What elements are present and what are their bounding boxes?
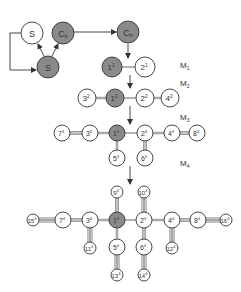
node-2-4: 24	[136, 212, 152, 228]
node-8-4: 84	[190, 212, 206, 228]
node-7-4: 74	[55, 212, 71, 228]
node-7-3: 73	[54, 125, 70, 141]
node-14-4: 144	[138, 269, 150, 281]
node-13-4: 134	[111, 269, 123, 281]
node-3-3: 33	[82, 125, 98, 141]
stage-label-M4: M4	[180, 159, 190, 169]
cycle-node-Cb_right: Cb	[117, 21, 139, 43]
node-12-4: 124	[166, 242, 178, 254]
node-15-4: 154	[27, 214, 39, 226]
svg-text:S: S	[45, 63, 51, 73]
node-4-4: 44	[164, 212, 180, 228]
node-1-2: 12	[106, 89, 124, 107]
node-3-4: 34	[82, 212, 98, 228]
stage-labels: M1M2M3M4	[180, 61, 190, 169]
cycle-node-Cb: Cb	[52, 22, 74, 44]
node-9-4: 94	[111, 186, 123, 198]
node-1-4: 14	[109, 212, 125, 228]
stage-label-M3: M3	[180, 113, 190, 123]
cycle-node-S_top: S	[21, 22, 43, 44]
node-2-1: 21	[135, 57, 155, 77]
generation-tree-diagram: SCbSCb 112132122242733313234383536315474…	[0, 0, 241, 292]
node-16-4: 164	[220, 214, 232, 226]
arrow-s-to-s-top	[38, 44, 44, 56]
node-3-2: 32	[78, 89, 96, 107]
node-5-3: 53	[109, 150, 125, 166]
node-2-3: 23	[137, 125, 153, 141]
stage-label-M2: M2	[180, 79, 190, 89]
tree-nodes: 1121321222427333132343835363154743414244…	[27, 57, 232, 281]
svg-text:S: S	[29, 29, 35, 39]
node-8-3: 83	[189, 125, 205, 141]
node-1-3: 13	[109, 125, 125, 141]
node-1-1: 11	[102, 57, 122, 77]
node-11-4: 114	[84, 242, 96, 254]
node-4-2: 42	[161, 89, 179, 107]
stage-label-M1: M1	[180, 61, 190, 71]
bonds	[33, 67, 226, 275]
node-10-4: 104	[138, 186, 150, 198]
node-4-3: 43	[164, 125, 180, 141]
node-6-3: 63	[137, 150, 153, 166]
node-5-4: 54	[109, 239, 125, 255]
node-6-4: 64	[136, 239, 152, 255]
arrow-s-to-cb	[52, 44, 58, 56]
cycle-node-S_bottom: S	[37, 56, 59, 78]
node-2-2: 22	[136, 89, 154, 107]
